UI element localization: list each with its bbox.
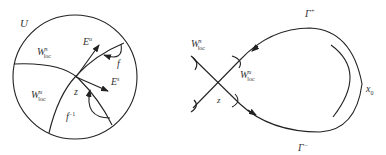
tangency-point-label: x0	[365, 83, 373, 96]
stable-eigen-label: Es	[110, 76, 120, 87]
unstable-manifold-label: Wuloc	[31, 89, 46, 102]
gamma-minus-label: Γ−	[297, 142, 308, 153]
map-f-label: f	[117, 58, 121, 69]
map-f-arrow	[104, 44, 121, 57]
region-label: U	[20, 17, 29, 29]
right-diagram	[191, 28, 362, 132]
left-labels: U Wsloc Wuloc Eu Es f f−1 z	[20, 17, 121, 122]
unstable-eigen-label: Eu	[82, 36, 92, 47]
lower-branch-arrow	[248, 110, 256, 115]
bracket-stable-upper	[191, 56, 197, 70]
gamma-plus-label: Γ+	[304, 8, 315, 19]
diagram-canvas: U Wsloc Wuloc Eu Es f f−1 z Γ+ Γ− Wsloc	[0, 0, 386, 155]
right-unstable-manifold-label: Wuloc	[240, 69, 255, 82]
right-stable-manifold-label: Wsloc	[191, 38, 205, 51]
fixed-point-label: z	[73, 86, 78, 97]
stable-eigen-arrow	[76, 77, 108, 91]
inverse-map-label: f−1	[66, 111, 75, 122]
stable-branch-gamma-minus	[240, 84, 362, 132]
unstable-eigen-arrow	[76, 45, 99, 77]
unstable-branch-gamma-plus	[240, 28, 362, 84]
right-fixed-point-label: z	[216, 95, 221, 105]
stable-manifold-label: Wsloc	[37, 46, 51, 59]
right-labels: Γ+ Γ− Wsloc Wuloc z x0	[191, 8, 373, 153]
tangency-arc	[331, 45, 350, 117]
